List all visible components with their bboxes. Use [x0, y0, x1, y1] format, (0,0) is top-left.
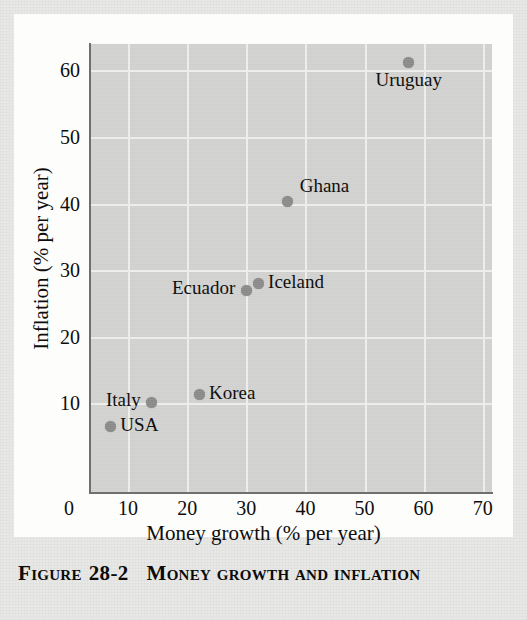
x-tick-label-40: 40: [295, 498, 315, 518]
y-tick-label-40: 40: [60, 194, 80, 214]
x-axis-line: [89, 492, 493, 494]
x-tick-label-20: 20: [177, 498, 197, 518]
data-point-usa: [105, 421, 116, 432]
data-point-italy: [146, 397, 157, 408]
gridline-vertical: [365, 44, 367, 492]
caption-number: 28-2: [89, 561, 129, 585]
scatter-plot: 010203040506070 102030405060 USAItalyKor…: [14, 14, 513, 537]
y-axis-line: [89, 43, 91, 494]
figure-caption: Figure28-2Money growth and inflation: [18, 561, 518, 586]
y-tick-label-20: 20: [60, 327, 80, 347]
data-point-ecuador: [241, 285, 252, 296]
x-tick-label-0: 0: [64, 498, 74, 518]
x-tick-label-10: 10: [118, 498, 138, 518]
y-tick-label-10: 10: [60, 393, 80, 413]
point-label-uruguay: Uruguay: [376, 70, 442, 89]
data-point-iceland: [253, 278, 264, 289]
data-point-korea: [194, 389, 205, 400]
gridline-vertical: [305, 44, 307, 492]
point-label-ghana: Ghana: [300, 176, 350, 195]
gridline-vertical: [483, 44, 485, 492]
gridline-vertical: [424, 44, 426, 492]
point-label-iceland: Iceland: [268, 272, 324, 291]
gridline-horizontal: [90, 137, 492, 139]
point-label-italy: Italy: [106, 390, 141, 409]
x-tick-label-70: 70: [473, 498, 493, 518]
x-tick-label-30: 30: [236, 498, 256, 518]
point-label-usa: USA: [120, 415, 158, 434]
y-tick-label-30: 30: [60, 260, 80, 280]
gridline-vertical: [187, 44, 189, 492]
y-tick-label-50: 50: [60, 127, 80, 147]
data-point-uruguay: [403, 57, 414, 68]
y-tick-label-60: 60: [60, 60, 80, 80]
gridline-horizontal: [90, 337, 492, 339]
caption-title: Money growth and inflation: [147, 561, 421, 585]
y-axis-title: Inflation (% per year): [29, 69, 54, 449]
figure-page: 010203040506070 102030405060 USAItalyKor…: [0, 0, 527, 620]
x-axis-title: Money growth (% per year): [14, 521, 513, 546]
caption-label: Figure: [18, 561, 82, 585]
point-label-korea: Korea: [209, 383, 255, 402]
gridline-vertical: [246, 44, 248, 492]
point-label-ecuador: Ecuador: [172, 278, 235, 297]
x-tick-label-60: 60: [414, 498, 434, 518]
x-tick-label-50: 50: [355, 498, 375, 518]
figure-panel: 010203040506070 102030405060 USAItalyKor…: [14, 14, 513, 537]
